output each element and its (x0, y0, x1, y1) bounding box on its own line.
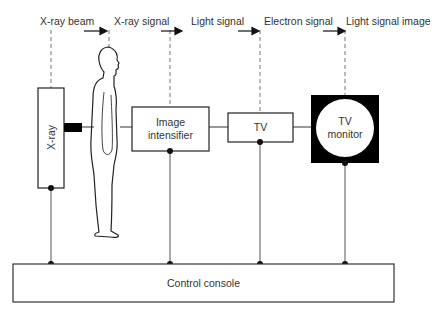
intensifier-line2: intensifier (132, 129, 209, 142)
monitor-line1: TV (316, 115, 374, 128)
arrows (84, 28, 345, 35)
arrow-icon (252, 28, 259, 35)
junction-dots (48, 139, 348, 267)
diagram-canvas (0, 0, 447, 314)
xray-label: X-ray (45, 108, 58, 168)
label-electron-signal: Electron signal (264, 15, 333, 27)
label-xray-beam: X-ray beam (40, 15, 94, 27)
label-light-signal: Light signal (191, 15, 244, 27)
label-light-signal-image: Light signal image (346, 15, 431, 27)
arrow-icon (100, 28, 107, 35)
console-connections (51, 142, 345, 264)
signal-leaders (51, 30, 345, 113)
patient-arm (102, 92, 113, 155)
arrow-icon (175, 28, 182, 35)
xray-tube-collimator (64, 123, 82, 132)
image-intensifier-label: Image intensifier (132, 116, 209, 142)
intensifier-line1: Image (132, 116, 209, 129)
monitor-line2: monitor (316, 128, 374, 141)
patient-figure (91, 47, 119, 237)
control-console-label: Control console (13, 277, 394, 290)
tv-monitor-label: TV monitor (316, 115, 374, 141)
tv-label: TV (228, 121, 293, 134)
label-xray-signal: X-ray signal (114, 15, 169, 27)
arrow-icon (338, 28, 345, 35)
